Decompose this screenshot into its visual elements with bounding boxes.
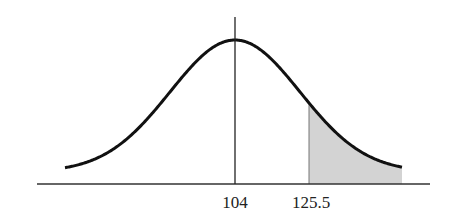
shaded-tail-region: [309, 103, 402, 184]
cutoff-label: 125.5: [292, 193, 330, 212]
normal-curve-diagram: 104 125.5: [0, 0, 451, 219]
mean-label: 104: [222, 193, 248, 212]
